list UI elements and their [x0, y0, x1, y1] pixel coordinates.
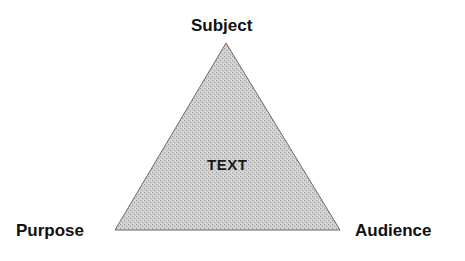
center-label-text: TEXT: [207, 157, 247, 172]
triangle-shape: [115, 43, 340, 230]
vertex-label-audience: Audience: [355, 222, 432, 239]
vertex-label-subject: Subject: [191, 17, 252, 34]
rhetorical-triangle-diagram: Subject Purpose Audience TEXT: [0, 0, 465, 261]
vertex-label-purpose: Purpose: [16, 222, 84, 239]
